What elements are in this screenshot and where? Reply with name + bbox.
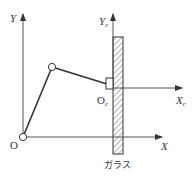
robot-elbow-joint <box>48 63 55 70</box>
world-x-label: X <box>160 140 169 152</box>
glass-origin-label: Oc <box>97 94 108 108</box>
link-2 <box>52 67 107 84</box>
glass-label: ガラス <box>104 160 131 170</box>
world-origin-label: O <box>10 139 18 151</box>
glass-y-label: Yc <box>99 15 109 29</box>
robot-glass-diagram: Y X O Yc Xc Oc ガラス <box>0 0 192 178</box>
glass-x-label: Xc <box>175 94 187 108</box>
glass-pane <box>113 37 123 154</box>
world-y-label: Y <box>10 12 18 24</box>
robot-base-joint <box>19 133 26 140</box>
end-effector <box>106 78 113 89</box>
link-1 <box>23 67 52 137</box>
